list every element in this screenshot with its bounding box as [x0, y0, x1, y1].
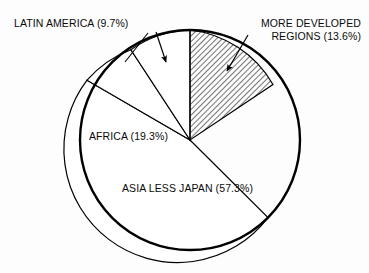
label-more-developed-regions-line1: MORE DEVELOPED: [261, 17, 361, 30]
label-asia-less-japan: ASIA LESS JAPAN (57.3%): [122, 182, 253, 195]
label-latin-america: LATIN AMERICA (9.7%): [14, 17, 128, 30]
pie-slice-more-developed-regions: [190, 30, 273, 140]
label-more-developed-regions-line2: REGIONS (13.6%): [261, 30, 361, 43]
pie-chart-figure: LATIN AMERICA (9.7%) MORE DEVELOPED REGI…: [0, 0, 369, 273]
label-africa: AFRICA (19.3%): [89, 130, 168, 143]
label-more-developed-regions: MORE DEVELOPED REGIONS (13.6%): [261, 17, 361, 42]
